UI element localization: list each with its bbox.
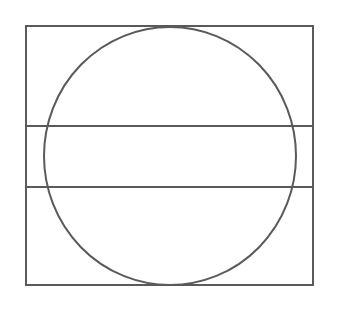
inscribed-circle bbox=[44, 27, 296, 285]
diagram-canvas bbox=[0, 0, 342, 309]
outer-rectangle bbox=[26, 26, 313, 285]
